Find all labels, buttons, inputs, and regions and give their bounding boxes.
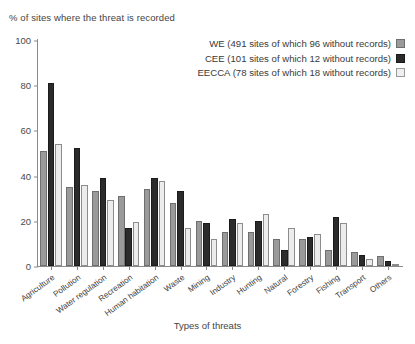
bar — [314, 234, 321, 266]
bar-group — [38, 40, 64, 266]
legend-swatch — [396, 68, 405, 77]
legend-label: CEE (101 sites of which 12 without recor… — [205, 53, 391, 64]
y-axis-tick-mark — [34, 266, 38, 267]
bar — [159, 181, 166, 266]
bar — [55, 144, 62, 266]
y-axis-tick-label: 40 — [20, 170, 31, 181]
y-axis-tick: 0 — [26, 261, 38, 272]
legend-item-eecca: EECCA (78 sites of which 18 without reco… — [197, 67, 405, 78]
bar — [333, 217, 340, 266]
bar — [177, 191, 184, 266]
y-axis-tick-label: 60 — [20, 125, 31, 136]
bar — [299, 239, 306, 266]
bar — [366, 259, 373, 266]
bar — [351, 252, 358, 266]
bar — [74, 148, 81, 266]
bar — [196, 221, 203, 266]
y-axis-tick: 60 — [20, 125, 38, 136]
y-axis-tick: 20 — [20, 215, 38, 226]
x-axis-tick-mark — [51, 266, 52, 270]
bar — [66, 187, 73, 266]
bar-group — [168, 40, 194, 266]
legend-swatch — [396, 39, 405, 48]
x-axis-tick-label: Agriculture — [19, 273, 56, 303]
bar — [237, 223, 244, 266]
bar — [248, 232, 255, 266]
x-axis-tick-mark — [258, 266, 259, 270]
x-axis-tick-mark — [310, 266, 311, 270]
y-axis-tick: 40 — [20, 170, 38, 181]
bar — [377, 256, 384, 266]
bar — [170, 203, 177, 266]
bar — [281, 250, 288, 266]
y-axis-tick: 100 — [15, 35, 38, 46]
bar-group — [116, 40, 142, 266]
bar — [273, 239, 280, 266]
bar — [340, 223, 347, 266]
bar-group — [64, 40, 90, 266]
x-axis-tick-mark — [181, 266, 182, 270]
bar — [81, 185, 88, 266]
bar — [118, 196, 125, 266]
bar-group — [142, 40, 168, 266]
bar — [185, 228, 192, 266]
bar — [133, 222, 140, 266]
bar — [92, 191, 99, 266]
bar — [203, 223, 210, 266]
bar — [392, 264, 399, 266]
bar — [40, 151, 47, 266]
legend-swatch — [396, 54, 405, 63]
bar — [211, 239, 218, 266]
bar — [359, 255, 366, 266]
x-axis-tick-mark — [284, 266, 285, 270]
bar — [325, 250, 332, 266]
bar — [125, 228, 132, 266]
bar — [48, 83, 55, 266]
x-axis-tick-mark — [232, 266, 233, 270]
x-axis-tick-mark — [388, 266, 389, 270]
bar — [263, 214, 270, 266]
y-axis-tick-label: 0 — [26, 261, 31, 272]
legend-item-cee: CEE (101 sites of which 12 without recor… — [205, 53, 405, 64]
x-axis-tick-mark — [103, 266, 104, 270]
y-axis-tick: 80 — [20, 80, 38, 91]
bar — [144, 189, 151, 266]
x-axis-tick-mark — [362, 266, 363, 270]
y-axis-tick-label: 80 — [20, 80, 31, 91]
x-axis-tick-mark — [336, 266, 337, 270]
bar — [222, 232, 229, 266]
bar — [151, 178, 158, 266]
bar — [100, 178, 107, 266]
y-axis-title: % of sites where the threat is recorded — [9, 12, 175, 23]
bar — [307, 237, 314, 266]
x-axis-line — [37, 266, 403, 267]
bar — [107, 200, 114, 266]
bar-chart: % of sites where the threat is recorded … — [0, 0, 415, 344]
y-axis-tick-label: 20 — [20, 215, 31, 226]
bar — [255, 221, 262, 266]
x-axis-tick-mark — [155, 266, 156, 270]
x-axis-tick-mark — [129, 266, 130, 270]
x-axis-title: Types of threats — [0, 320, 415, 331]
legend-label: EECCA (78 sites of which 18 without reco… — [197, 67, 391, 78]
bar — [288, 228, 295, 266]
y-axis-tick-label: 100 — [15, 35, 31, 46]
x-axis-tick-mark — [206, 266, 207, 270]
legend-item-we: WE (491 sites of which 96 without record… — [209, 38, 405, 49]
chart-legend: WE (491 sites of which 96 without record… — [197, 38, 405, 78]
legend-label: WE (491 sites of which 96 without record… — [209, 38, 391, 49]
x-axis-tick-mark — [77, 266, 78, 270]
bar-group — [90, 40, 116, 266]
bar — [229, 219, 236, 266]
